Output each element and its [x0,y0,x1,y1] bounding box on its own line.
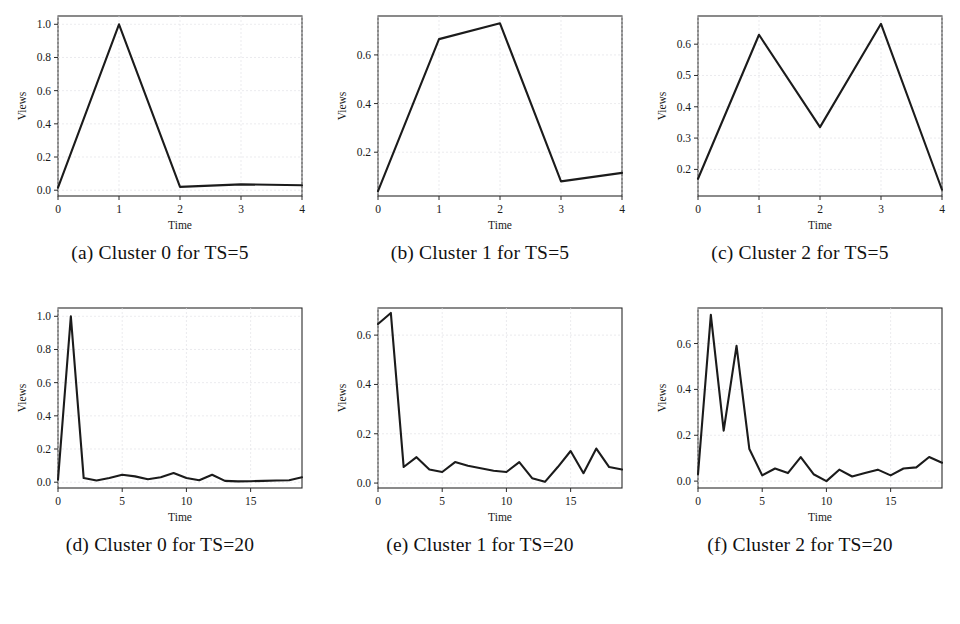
x-tick-label: 10 [501,495,513,507]
y-tick-label: 0.2 [677,429,692,441]
y-tick-label: 1.0 [37,18,52,30]
y-tick-label: 0.2 [37,151,52,163]
caption-a: (a) Cluster 0 for TS=5 [71,242,249,264]
y-axis-title: Views [656,91,668,120]
x-tick-label: 2 [497,203,503,215]
y-tick-label: 0.2 [357,428,372,440]
x-tick-label: 1 [116,203,122,215]
x-tick-label: 0 [695,495,701,507]
x-tick-label: 0 [375,495,381,507]
x-axis-title: Time [168,219,192,231]
x-tick-label: 10 [181,495,193,507]
x-tick-label: 10 [821,495,833,507]
y-tick-label: 0.2 [677,163,692,175]
y-tick-label: 0.6 [357,49,372,61]
chart-a: 012340.00.20.40.60.81.0TimeViews [10,6,310,244]
y-tick-label: 0.6 [357,329,372,341]
caption-e: (e) Cluster 1 for TS=20 [386,534,573,556]
x-tick-label: 2 [817,203,823,215]
panel-d: 0510150.00.20.40.60.81.0TimeViews (d) Cl… [0,298,320,590]
x-tick-label: 0 [695,203,701,215]
y-axis-title: Views [336,383,348,412]
y-tick-label: 0.2 [37,443,52,455]
y-tick-label: 0.4 [37,118,52,130]
panel-f: 0510150.00.20.40.6TimeViews (f) Cluster … [640,298,960,590]
x-axis-title: Time [488,219,512,231]
x-tick-label: 1 [756,203,762,215]
y-tick-label: 0.4 [677,383,692,395]
x-axis-title: Time [488,511,512,523]
y-tick-label: 0.8 [37,51,52,63]
x-tick-label: 2 [177,203,183,215]
x-tick-label: 5 [439,495,445,507]
panel-c: 012340.20.30.40.50.6TimeViews (c) Cluste… [640,6,960,298]
y-tick-label: 0.5 [677,69,692,81]
x-axis-title: Time [808,219,832,231]
chart-f: 0510150.00.20.40.6TimeViews [650,298,950,536]
y-tick-label: 0.6 [677,38,692,50]
chart-e: 0510150.00.20.40.6TimeViews [330,298,630,536]
x-tick-label: 4 [299,203,305,215]
y-axis-title: Views [336,91,348,120]
x-tick-label: 15 [245,495,257,507]
x-tick-label: 5 [119,495,125,507]
y-tick-label: 0.6 [37,377,52,389]
x-tick-label: 3 [238,203,244,215]
panel-a: 012340.00.20.40.60.81.0TimeViews (a) Clu… [0,6,320,298]
y-tick-label: 1.0 [37,310,52,322]
plot-area-a: 012340.00.20.40.60.81.0TimeViews [10,6,310,244]
x-tick-label: 15 [565,495,577,507]
y-tick-label: 0.4 [357,378,372,390]
plot-area-d: 0510150.00.20.40.60.81.0TimeViews [10,298,310,536]
y-tick-label: 0.6 [677,338,692,350]
y-tick-label: 0.0 [37,476,52,488]
x-tick-label: 15 [885,495,897,507]
y-axis-title: Views [656,383,668,412]
y-tick-label: 0.0 [677,475,692,487]
x-tick-label: 0 [55,495,61,507]
y-tick-label: 0.0 [357,477,372,489]
plot-area-f: 0510150.00.20.40.6TimeViews [650,298,950,536]
panel-b: 012340.20.40.6TimeViews (b) Cluster 1 fo… [320,6,640,298]
chart-b: 012340.20.40.6TimeViews [330,6,630,244]
chart-c: 012340.20.30.40.50.6TimeViews [650,6,950,244]
plot-area-c: 012340.20.30.40.50.6TimeViews [650,6,950,244]
caption-d: (d) Cluster 0 for TS=20 [66,534,255,556]
x-axis-title: Time [168,511,192,523]
caption-b: (b) Cluster 1 for TS=5 [391,242,570,264]
x-axis-title: Time [808,511,832,523]
x-tick-label: 3 [558,203,564,215]
x-tick-label: 4 [939,203,945,215]
plot-area-e: 0510150.00.20.40.6TimeViews [330,298,630,536]
y-tick-label: 0.4 [677,101,692,113]
caption-f: (f) Cluster 2 for TS=20 [707,534,892,556]
y-tick-label: 0.3 [677,132,692,144]
y-tick-label: 0.0 [37,184,52,196]
caption-c: (c) Cluster 2 for TS=5 [711,242,889,264]
y-tick-label: 0.2 [357,146,372,158]
y-tick-label: 0.4 [357,98,372,110]
x-tick-label: 4 [619,203,625,215]
chart-d: 0510150.00.20.40.60.81.0TimeViews [10,298,310,536]
plot-frame [698,308,942,488]
figure-grid: 012340.00.20.40.60.81.0TimeViews (a) Clu… [0,0,960,624]
x-tick-label: 1 [436,203,442,215]
x-tick-label: 0 [375,203,381,215]
x-tick-label: 3 [878,203,884,215]
y-tick-label: 0.6 [37,85,52,97]
y-axis-title: Views [16,383,28,412]
y-tick-label: 0.4 [37,410,52,422]
x-tick-label: 5 [759,495,765,507]
plot-frame [58,308,302,488]
plot-area-b: 012340.20.40.6TimeViews [330,6,630,244]
y-axis-title: Views [16,91,28,120]
y-tick-label: 0.8 [37,343,52,355]
panel-e: 0510150.00.20.40.6TimeViews (e) Cluster … [320,298,640,590]
x-tick-label: 0 [55,203,61,215]
